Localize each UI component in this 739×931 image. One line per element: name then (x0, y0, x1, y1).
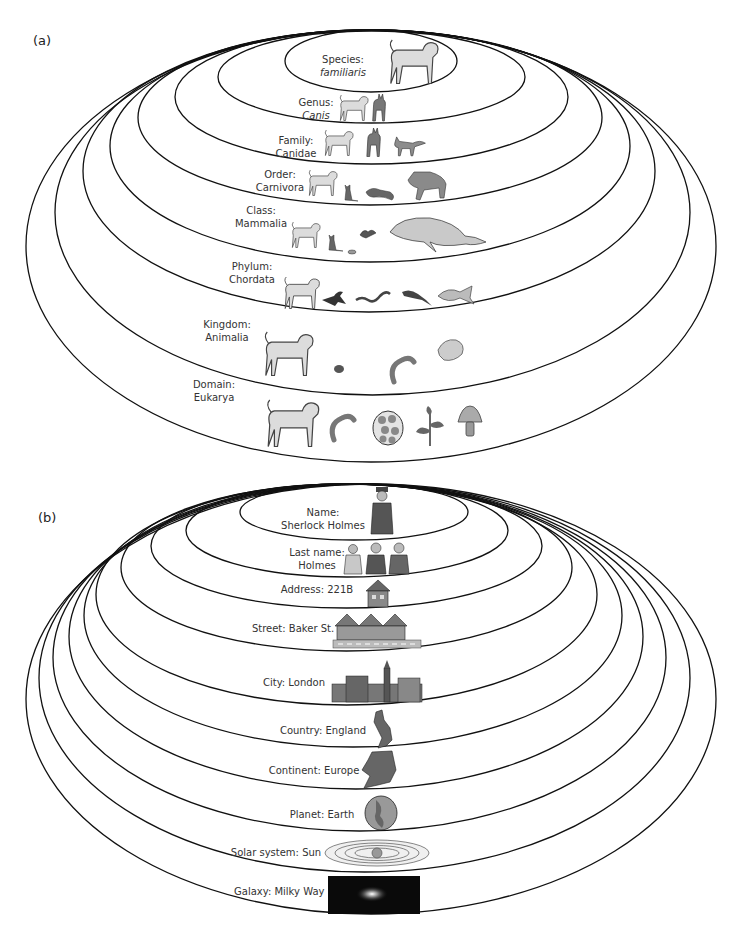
continent-label: Continent: Europe (264, 764, 364, 777)
level-value: Holmes (282, 559, 352, 572)
street-label: Street: Baker St. (248, 622, 338, 635)
kingdom-icons (265, 332, 463, 382)
family-icon (344, 543, 409, 574)
worm-icon (392, 358, 414, 382)
country-icons (374, 710, 392, 748)
europe-map-icon (362, 751, 396, 788)
planet-label: Planet: Earth (282, 808, 362, 821)
order-label: Order: Carnivora (250, 168, 310, 194)
mouse-icon (348, 250, 356, 254)
dog-icon (285, 277, 320, 309)
earth-globe-icon (365, 796, 397, 830)
solar-system-icons (325, 840, 429, 866)
family-label: Family: Canidae (266, 134, 326, 160)
plant-icon (416, 406, 444, 446)
taxon-name: familiaris (320, 67, 366, 78)
species-label: Species: familiaris (308, 53, 378, 79)
domain-icons (268, 400, 482, 447)
cell-icon (373, 411, 403, 445)
species-icons (390, 40, 438, 84)
hyena-icon (408, 172, 446, 200)
galaxy-icon (328, 876, 420, 914)
dog-icon (325, 130, 353, 156)
taxon-name: Chordata (222, 273, 282, 286)
nested-ellipses-diagram (0, 0, 739, 931)
phylum-icons (285, 277, 474, 309)
order-icons (309, 170, 446, 201)
kingdom-label: Kingdom: Animalia (197, 318, 257, 344)
taxon-name: Carnivora (250, 181, 310, 194)
weasel-icon (366, 188, 394, 200)
fish-icon (438, 286, 474, 304)
bat-icon (360, 230, 376, 238)
galaxy-label: Galaxy: Milky Way (234, 885, 324, 898)
whale-icon (390, 218, 486, 252)
street-icons (333, 614, 421, 648)
continent-icons (362, 751, 396, 788)
rank-label: Order: (250, 168, 310, 181)
rank-label: Genus: (286, 96, 346, 109)
street-houses-icon (333, 614, 421, 648)
city-skyline-icon (332, 660, 422, 702)
snake-icon (356, 292, 390, 301)
domain-label: Domain: Eukarya (184, 378, 244, 404)
taxon-name: Mammalia (231, 217, 291, 230)
wolf-icon (373, 94, 386, 121)
level-label: Last name: (282, 546, 352, 559)
taxon-name: Eukarya (184, 391, 244, 404)
class-icons (292, 218, 486, 254)
panel-a-ellipses (26, 30, 716, 462)
phylum-label: Phylum: Chordata (222, 260, 282, 286)
rank-label: Phylum: (222, 260, 282, 273)
rank-label: Species: (308, 53, 378, 66)
wolf-icon (367, 128, 381, 157)
dog-icon (390, 40, 438, 84)
shell-icon (438, 340, 463, 361)
class-label: Class: Mammalia (231, 204, 291, 230)
taxon-name: Animalia (197, 331, 257, 344)
detective-icon (371, 487, 393, 534)
last-name-icons (344, 543, 409, 574)
dog-icon (292, 222, 320, 248)
cat-icon (345, 185, 358, 201)
last-name-label: Last name: Holmes (282, 546, 352, 572)
worm-icon (332, 416, 354, 440)
city-label: City: London (254, 676, 334, 689)
dog-icon (309, 170, 337, 196)
fox-icon (395, 137, 426, 156)
address-icons (366, 580, 390, 607)
uk-map-icon (374, 710, 392, 748)
city-icons (332, 660, 422, 702)
lizard-icon (402, 290, 432, 306)
galaxy-icons (328, 876, 420, 914)
name-label: Name: Sherlock Holmes (278, 506, 368, 532)
family-icons (325, 128, 425, 157)
mushroom-icon (458, 406, 482, 436)
dog-icon (265, 332, 313, 376)
name-icons (371, 487, 393, 534)
solar-system-label: Solar system: Sun (226, 846, 326, 859)
taxon-name: Canidae (266, 147, 326, 160)
rank-label: Family: (266, 134, 326, 147)
solar-system-icon (325, 840, 429, 866)
country-label: Country: England (278, 724, 368, 737)
genus-label: Genus: Canis (286, 96, 346, 122)
planet-icons (365, 796, 397, 830)
cat-icon (329, 235, 343, 251)
rank-label: Domain: (184, 378, 244, 391)
genus-icons (340, 94, 385, 121)
dog-icon (268, 400, 319, 447)
house-icon (366, 580, 390, 607)
bird-icon (322, 292, 346, 307)
taxon-name: Canis (302, 110, 329, 121)
rank-label: Kingdom: (197, 318, 257, 331)
level-label: Name: (278, 506, 368, 519)
address-label: Address: 221B (272, 583, 362, 596)
rank-label: Class: (231, 204, 291, 217)
beetle-icon (334, 365, 344, 373)
level-value: Sherlock Holmes (278, 519, 368, 532)
